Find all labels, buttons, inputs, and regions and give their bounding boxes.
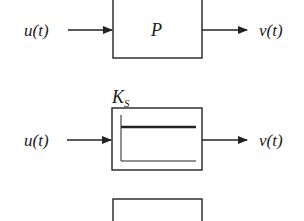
block-ks-title: KS — [112, 88, 130, 106]
block-ks-title-sub: S — [124, 97, 130, 109]
block-3-box — [113, 199, 202, 221]
row-2 — [67, 108, 247, 170]
step-response-icon — [121, 115, 196, 161]
block-ks-title-main: K — [112, 87, 124, 107]
row-3 — [113, 199, 202, 221]
input-label-2: u(t) — [24, 132, 49, 149]
output-label-1: v(t) — [259, 22, 283, 39]
block-p-label: P — [151, 21, 162, 39]
input-label-1: u(t) — [24, 22, 49, 39]
output-label-2: v(t) — [259, 132, 283, 149]
block-diagram: u(t) P v(t) KS u(t) v(t) — [0, 0, 304, 221]
